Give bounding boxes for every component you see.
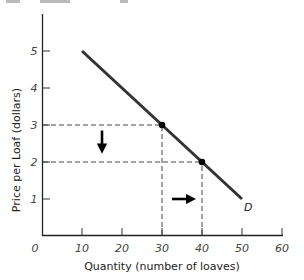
y-tick-label: 4 xyxy=(31,82,38,95)
y-tick-label: 5 xyxy=(31,45,38,58)
y-axis-title: Price per Loaf (dollars) xyxy=(10,88,23,212)
y-tick-label: 1 xyxy=(31,193,38,206)
x-tick-label: 20 xyxy=(115,242,129,255)
demand-curve: D xyxy=(82,51,252,214)
demand-chart: 102030405060 12345 D Quantity (number of… xyxy=(0,0,304,280)
x-tick-label: 40 xyxy=(195,242,209,255)
y-tick-label: 2 xyxy=(31,156,38,169)
x-tick-label: 10 xyxy=(75,242,89,255)
demand-curve-label: D xyxy=(244,201,252,214)
y-tick-label: 3 xyxy=(31,119,38,132)
x-axis-title: Quantity (number of loaves) xyxy=(84,260,240,273)
origin-label: 0 xyxy=(32,242,39,255)
x-tick-label: 60 xyxy=(275,242,289,255)
x-tick-label: 30 xyxy=(155,242,169,255)
equilibrium-point xyxy=(159,122,166,129)
x-axis-ticks: 102030405060 xyxy=(75,228,289,255)
equilibrium-point xyxy=(199,159,206,166)
x-tick-label: 50 xyxy=(235,242,249,255)
